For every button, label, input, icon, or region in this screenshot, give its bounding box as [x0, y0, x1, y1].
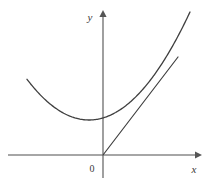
parabola-tangent-figure: y x 0: [0, 0, 216, 184]
origin-label: 0: [90, 163, 95, 174]
tangent-line: [103, 57, 178, 155]
y-axis-label: y: [87, 11, 93, 23]
x-axis-arrow-icon: [195, 151, 202, 158]
x-axis-label: x: [191, 163, 197, 175]
figure-canvas: y x 0: [0, 0, 216, 184]
parabola-curve: [27, 12, 190, 120]
y-axis-arrow-icon: [99, 10, 106, 17]
